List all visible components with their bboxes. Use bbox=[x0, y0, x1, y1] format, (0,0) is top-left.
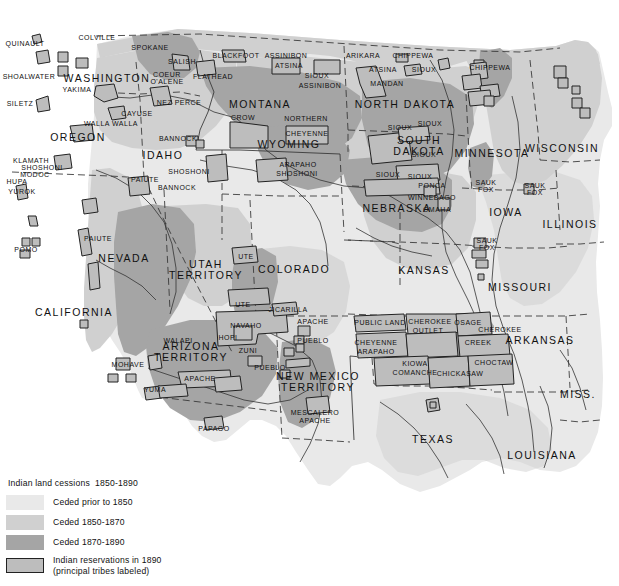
legend-label-ceded-1870-1890: Ceded 1870-1890 bbox=[53, 537, 125, 548]
legend-label-reservations-1890: Indian reservations in 1890 (principal t… bbox=[53, 555, 162, 576]
legend-swatch-ceded-1850-1870 bbox=[6, 515, 44, 530]
legend-title: Indian land cessions 1850-1890 bbox=[8, 478, 246, 488]
legend-row-ceded-1870-1890: Ceded 1870-1890 bbox=[6, 535, 246, 550]
legend-row-ceded-prior-1850: Ceded prior to 1850 bbox=[6, 495, 246, 510]
legend-swatch-reservations-1890 bbox=[6, 558, 44, 573]
legend-row-ceded-1850-1870: Ceded 1850-1870 bbox=[6, 515, 246, 530]
legend: Indian land cessions 1850-1890 Ceded pri… bbox=[6, 478, 246, 581]
legend-swatch-ceded-1870-1890 bbox=[6, 535, 44, 550]
legend-row-reservations-1890: Indian reservations in 1890 (principal t… bbox=[6, 555, 246, 576]
legend-swatch-ceded-prior-1850 bbox=[6, 495, 44, 510]
legend-label-ceded-prior-1850: Ceded prior to 1850 bbox=[53, 497, 133, 508]
legend-label-ceded-1850-1870: Ceded 1850-1870 bbox=[53, 517, 125, 528]
indian-land-cessions-map: WASHINGTONOREGONIDAHOMONTANAWYOMINGNORTH… bbox=[0, 0, 619, 586]
